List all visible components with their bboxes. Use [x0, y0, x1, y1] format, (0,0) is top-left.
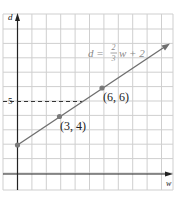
svg-text:w + 2: w + 2: [119, 47, 145, 59]
point-label-6-6: (6, 6): [103, 90, 129, 104]
graph: d w 5 (3, 4) (6, 6) d = 2 3 w + 2: [0, 0, 176, 202]
grid: [3, 14, 173, 190]
w-axis-label: w: [166, 179, 172, 188]
equation-label: d = 2 3 w + 2: [88, 43, 145, 63]
svg-text:3: 3: [111, 54, 116, 63]
svg-text:d =: d =: [88, 47, 104, 59]
svg-text:2: 2: [112, 43, 116, 52]
x-axis-arrow-icon: [165, 172, 173, 177]
tick-label-5: 5: [8, 96, 13, 106]
d-axis-label: d: [8, 12, 13, 22]
point-label-3-4: (3, 4): [60, 119, 86, 133]
line-arrow-icon: [162, 44, 171, 51]
axes: [3, 20, 168, 190]
point-0-2: [15, 142, 20, 147]
